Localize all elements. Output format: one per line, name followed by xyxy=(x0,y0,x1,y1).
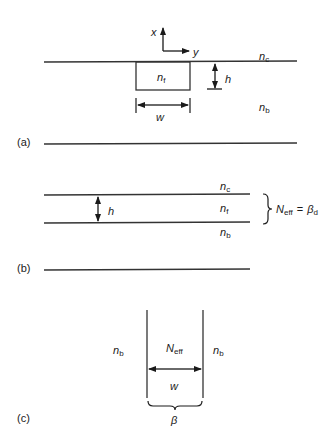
w-label: w xyxy=(156,111,165,123)
panel-c-label: (c) xyxy=(17,412,30,424)
bottom-interface-line xyxy=(44,222,250,223)
h-label: h xyxy=(225,73,231,85)
brace-icon xyxy=(263,194,272,224)
n-sub-label: nb xyxy=(259,101,270,115)
panel-b-label: (b) xyxy=(17,262,30,274)
axis-x-label: x xyxy=(150,26,157,38)
panel-a: x y nc nf nb h w (a) xyxy=(17,26,297,148)
h-label: h xyxy=(108,205,114,217)
neff-equation: Neff=βd xyxy=(276,203,318,217)
neff-label: Neff xyxy=(166,342,183,356)
brace-icon xyxy=(148,401,202,410)
axis-y-label: y xyxy=(192,46,200,58)
n-sub-label: nb xyxy=(220,226,231,240)
n-film-label: nf xyxy=(157,71,166,85)
bottom-line xyxy=(44,269,250,270)
bottom-line xyxy=(44,143,297,144)
n-film-label: nf xyxy=(220,202,229,216)
w-label: w xyxy=(170,380,179,392)
n-right-label: nb xyxy=(213,344,224,358)
top-interface-line xyxy=(44,194,250,195)
panel-b: h nc nf nb Neff=βd (b) xyxy=(17,180,318,274)
panel-a-label: (a) xyxy=(17,136,30,148)
n-cover-label: nc xyxy=(259,50,269,64)
panel-c: nb nb Neff w β (c) xyxy=(17,310,224,426)
waveguide-diagram: x y nc nf nb h w (a) h nc nf nb Neff=βd … xyxy=(0,0,328,442)
n-left-label: nb xyxy=(113,344,124,358)
beta-label: β xyxy=(170,414,178,426)
n-cover-label: nc xyxy=(220,180,230,194)
